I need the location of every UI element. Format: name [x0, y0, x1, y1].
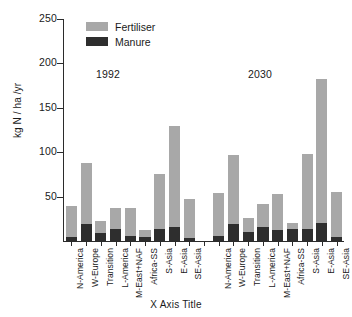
x-axis-tick	[175, 241, 176, 246]
bar-segment-fertiliser[interactable]	[81, 163, 92, 224]
bar-segment-fertiliser[interactable]	[316, 79, 327, 223]
stacked-bar[interactable]	[154, 174, 165, 241]
bar-group[interactable]	[123, 19, 138, 241]
y-axis-tick-label: 200	[39, 56, 57, 68]
x-axis-tick	[204, 241, 205, 246]
bar-group[interactable]	[270, 19, 285, 241]
bar-group[interactable]	[108, 19, 123, 241]
stacked-bar[interactable]	[213, 193, 224, 241]
x-axis-tick	[116, 241, 117, 246]
bar-segment-fertiliser[interactable]	[154, 174, 165, 230]
x-axis-category-label: N-America	[75, 248, 85, 289]
x-axis-category-label: L-America	[267, 248, 277, 288]
bar-group[interactable]	[226, 19, 241, 241]
bar-segment-fertiliser[interactable]	[243, 218, 254, 232]
x-axis-tick	[263, 241, 264, 246]
stacked-bar[interactable]	[81, 163, 92, 241]
x-axis-tick	[248, 241, 249, 246]
bar-group[interactable]	[152, 19, 167, 241]
stacked-bar[interactable]	[66, 206, 77, 241]
x-axis-category-label: L-America	[120, 248, 130, 288]
stacked-bar[interactable]	[287, 223, 298, 241]
bar-segment-fertiliser[interactable]	[213, 193, 224, 236]
stacked-bar[interactable]	[316, 79, 327, 241]
stacked-bar[interactable]	[331, 192, 342, 241]
bar-segment-fertiliser[interactable]	[66, 206, 77, 237]
bar-segment-fertiliser[interactable]	[125, 208, 136, 236]
annotation-year-2030: 2030	[248, 68, 272, 80]
bar-group[interactable]	[79, 19, 94, 241]
x-axis-tick	[71, 241, 72, 246]
x-axis-tick	[278, 241, 279, 246]
x-axis-tick	[337, 241, 338, 246]
bar-segment-manure[interactable]	[110, 229, 121, 241]
bar-segment-fertiliser[interactable]	[110, 208, 121, 228]
x-axis-category-label: E-Asia	[326, 248, 336, 274]
bar-segment-manure[interactable]	[243, 232, 254, 241]
stacked-bar[interactable]	[110, 208, 121, 241]
bar-group[interactable]	[93, 19, 108, 241]
bar-group[interactable]	[256, 19, 271, 241]
stacked-bar[interactable]	[228, 155, 239, 241]
bar-group[interactable]	[300, 19, 315, 241]
bar-segment-fertiliser[interactable]	[272, 194, 283, 230]
bar-group[interactable]	[138, 19, 153, 241]
x-axis-category-label: W-Europe	[237, 248, 247, 287]
bar-group[interactable]	[64, 19, 79, 241]
stacked-bar[interactable]	[257, 204, 268, 241]
legend-swatch-fertiliser	[86, 22, 108, 31]
bar-segment-manure[interactable]	[272, 230, 283, 241]
x-axis-category-label: S-Asia	[311, 248, 321, 274]
x-axis-category-label: W-Europe	[90, 248, 100, 287]
bar-segment-manure[interactable]	[302, 229, 313, 241]
bar-segment-fertiliser[interactable]	[302, 154, 313, 229]
x-axis-category-label: Transition	[252, 248, 262, 286]
legend-swatch-manure	[86, 37, 108, 46]
annotation-year-1992: 1992	[96, 68, 120, 80]
bar-segment-manure[interactable]	[154, 229, 165, 241]
legend-label-manure: Manure	[115, 36, 151, 48]
bar-segment-manure[interactable]	[316, 223, 327, 241]
y-axis-tick-label: 250	[39, 12, 57, 24]
bar-segment-fertiliser[interactable]	[184, 199, 195, 238]
bar-segment-manure[interactable]	[287, 229, 298, 241]
stacked-bar[interactable]	[125, 208, 136, 241]
bar-segment-manure[interactable]	[95, 233, 106, 241]
x-axis-category-label: Transition	[105, 248, 115, 286]
bar-chart: kg N / ha /yr 25020015010050 N-AmericaW-…	[0, 0, 352, 317]
y-axis-tick	[57, 63, 63, 64]
bar-group[interactable]	[329, 19, 344, 241]
bar-segment-manure[interactable]	[257, 227, 268, 241]
bar-group[interactable]	[241, 19, 256, 241]
y-axis-tick-label: 50	[45, 190, 57, 202]
stacked-bar[interactable]	[302, 154, 313, 241]
stacked-bar[interactable]	[139, 230, 150, 241]
x-axis-category-label: M-East+NAF	[134, 248, 144, 298]
stacked-bar[interactable]	[272, 194, 283, 241]
bar-segment-manure[interactable]	[81, 224, 92, 241]
chart-legend: Fertiliser Manure	[86, 20, 155, 50]
bar-group[interactable]	[315, 19, 330, 241]
bar-segment-manure[interactable]	[169, 227, 180, 241]
bar-segment-fertiliser[interactable]	[331, 192, 342, 237]
plot-area	[64, 19, 344, 241]
bar-group[interactable]	[211, 19, 226, 241]
x-axis-tick	[160, 241, 161, 246]
stacked-bar[interactable]	[184, 199, 195, 241]
stacked-bar[interactable]	[95, 221, 106, 241]
x-axis-category-label: Africa-SS	[296, 248, 306, 285]
bar-segment-fertiliser[interactable]	[257, 204, 268, 227]
bar-group[interactable]	[167, 19, 182, 241]
bar-group[interactable]	[285, 19, 300, 241]
bar-segment-fertiliser[interactable]	[228, 155, 239, 224]
bar-segment-fertiliser[interactable]	[169, 126, 180, 226]
x-axis-tick	[189, 241, 190, 246]
y-axis-tick-label: 100	[39, 145, 57, 157]
bar-segment-manure[interactable]	[228, 224, 239, 241]
stacked-bar[interactable]	[169, 126, 180, 241]
x-axis-category-label: SE-Asia	[193, 248, 203, 279]
bar-group[interactable]	[182, 19, 197, 241]
stacked-bar[interactable]	[243, 218, 254, 241]
bar-group[interactable]	[197, 19, 212, 241]
bar-segment-fertiliser[interactable]	[95, 221, 106, 233]
